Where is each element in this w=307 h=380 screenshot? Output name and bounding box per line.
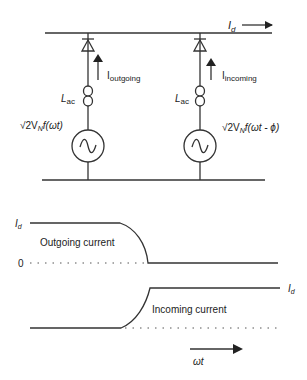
outgoing-level-label: Id: [15, 218, 23, 230]
right-branch: Iincoming Lac √2VNf(ωt - ϕ): [175, 33, 279, 180]
waveforms: Id 0 Outgoing current Id Incoming curren…: [15, 218, 296, 367]
outgoing-caption: Outgoing current: [40, 237, 115, 248]
left-inductor-label: Lac: [61, 93, 75, 106]
outgoing-current-label: Ioutgoing: [107, 70, 140, 83]
commutation-diagram: Id Ioutgoing Lac: [0, 0, 307, 380]
circuit: Id Ioutgoing Lac: [20, 19, 279, 180]
incoming-level-label: Id: [288, 283, 296, 295]
dc-current-label: Id: [228, 19, 236, 34]
left-source-label: √2VNf(ωt): [20, 120, 63, 132]
right-inductor-label: Lac: [175, 93, 189, 106]
incoming-current-label: Iincoming: [222, 70, 257, 83]
incoming-caption: Incoming current: [152, 304, 227, 315]
inductor-icon: [196, 86, 205, 130]
ac-source-icon: [72, 130, 104, 180]
ac-source-icon: [184, 130, 216, 180]
right-source-label: √2VNf(ωt - ϕ): [222, 122, 279, 134]
inductor-icon: [84, 86, 93, 130]
incoming-current-arrow-icon: [206, 58, 216, 80]
outgoing-current-arrow-icon: [93, 54, 103, 80]
zero-label: 0: [18, 258, 24, 269]
time-axis-label: ωt: [193, 356, 205, 367]
left-branch: Ioutgoing Lac √2VNf(ωt): [20, 33, 140, 180]
